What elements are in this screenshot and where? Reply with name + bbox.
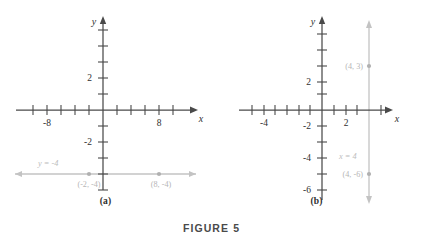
x-axis-a	[16, 107, 198, 114]
coordinate-plane-a: x y -8 8 2 -2 y = -4 (-2, -4) (8, -4)	[0, 0, 211, 215]
y-tick-label-b-2: 2	[306, 77, 311, 87]
point-label-a-1: (-2, -4)	[77, 180, 100, 189]
point-label-b-2: (4, -6)	[343, 170, 364, 179]
point-marker-b-1	[367, 64, 371, 68]
equation-label-b: x = 4	[338, 152, 357, 161]
y-axis-label-a: y	[91, 16, 97, 27]
y-axis-a	[100, 16, 106, 190]
panel-sublabel-b: (b)	[211, 196, 422, 206]
x-tick-label-a-8: 8	[157, 118, 162, 128]
panel-b: x y -4 2 2 -2 -4 -6 (4, 3) x = 4 (4, -6)…	[211, 0, 422, 215]
x-axis-label-b: x	[394, 113, 400, 124]
x-axis-label-a: x	[198, 113, 204, 124]
y-tick-label-a-neg2: -2	[84, 137, 92, 147]
point-marker-b-2	[367, 172, 371, 176]
x-tick-label-a-neg8: -8	[43, 118, 51, 128]
y-tick-label-a-2: 2	[87, 73, 92, 83]
y-tick-label-b-neg2: -2	[303, 121, 311, 131]
panel-a: x y -8 8 2 -2 y = -4 (-2, -4) (8, -4) (a…	[0, 0, 211, 215]
y-tick-label-b-neg6: -6	[303, 185, 311, 195]
figure-caption: FIGURE 5	[0, 222, 423, 234]
y-tick-label-b-neg4: -4	[303, 153, 311, 163]
x-tick-label-b-neg4: -4	[260, 118, 268, 128]
graph-line-b	[366, 20, 372, 204]
point-label-a-2: (8, -4)	[151, 180, 172, 189]
x-axis-b	[239, 107, 393, 114]
y-axis-label-b: y	[310, 16, 316, 27]
point-label-b-1: (4, 3)	[345, 62, 363, 71]
coordinate-plane-b: x y -4 2 2 -2 -4 -6 (4, 3) x = 4 (4, -6)	[211, 0, 422, 215]
panel-sublabel-a: (a)	[0, 196, 211, 206]
point-marker-a-2	[157, 172, 161, 176]
equation-label-a: y = -4	[37, 159, 59, 168]
x-tick-label-b-2: 2	[344, 118, 349, 128]
y-axis-b	[319, 16, 325, 200]
point-marker-a-1	[87, 172, 91, 176]
figure-5: x y -8 8 2 -2 y = -4 (-2, -4) (8, -4) (a…	[0, 0, 423, 245]
